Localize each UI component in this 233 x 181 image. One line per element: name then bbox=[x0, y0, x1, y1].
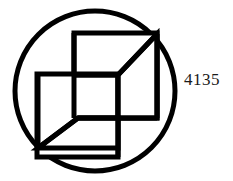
figure-page: 4135 bbox=[0, 0, 233, 181]
geometric-figure bbox=[0, 0, 233, 181]
